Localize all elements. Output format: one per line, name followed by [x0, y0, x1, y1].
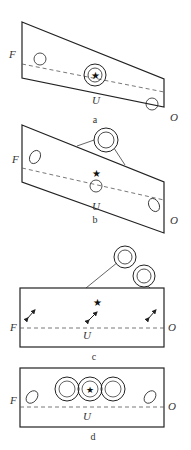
label-f: F: [11, 153, 19, 165]
vortex-icon: [24, 388, 41, 405]
star-icon: ★: [86, 385, 94, 395]
caption-c: c: [92, 351, 97, 362]
panel-d: ★ F U O d: [9, 368, 176, 442]
caption-a: a: [93, 114, 98, 125]
vortex-ring-icon: [55, 377, 79, 401]
double-arrow-icon: [148, 311, 155, 319]
label-o: O: [170, 214, 178, 226]
label-u: U: [83, 329, 92, 341]
zoom-callout-line: [86, 262, 118, 288]
zoom-circle-icon: [114, 246, 136, 268]
panel-a: ★ F U O a: [8, 22, 178, 125]
label-o: O: [168, 400, 176, 412]
label-o: O: [170, 111, 178, 123]
vortex-icon: [34, 53, 46, 65]
label-u: U: [83, 410, 92, 422]
caption-b: b: [93, 214, 98, 225]
vortex-icon: [142, 388, 159, 405]
label-o: O: [168, 321, 176, 333]
vortex-inner-icon: [105, 381, 121, 397]
star-icon: ★: [91, 70, 100, 81]
label-f: F: [9, 321, 17, 333]
label-f: F: [9, 394, 17, 406]
vortex-ring-icon: [101, 377, 125, 401]
caption-d: d: [91, 431, 96, 442]
diagram-canvas: ★ F U O a ★ F U O b ★ F U: [0, 0, 191, 450]
vortex-icon: [27, 148, 43, 165]
label-u: U: [92, 94, 101, 106]
panel-b: ★ F U O b: [11, 125, 178, 233]
panel-c: ★ F U O c: [9, 246, 176, 362]
star-icon: ★: [93, 297, 102, 308]
star-icon: ★: [92, 168, 101, 179]
zoom-circle-icon: [133, 265, 155, 287]
label-f: F: [8, 48, 16, 60]
label-u: U: [92, 200, 101, 212]
double-arrow-icon: [27, 311, 34, 319]
double-arrow-icon: [88, 313, 96, 321]
vortex-inner-icon: [59, 381, 75, 397]
